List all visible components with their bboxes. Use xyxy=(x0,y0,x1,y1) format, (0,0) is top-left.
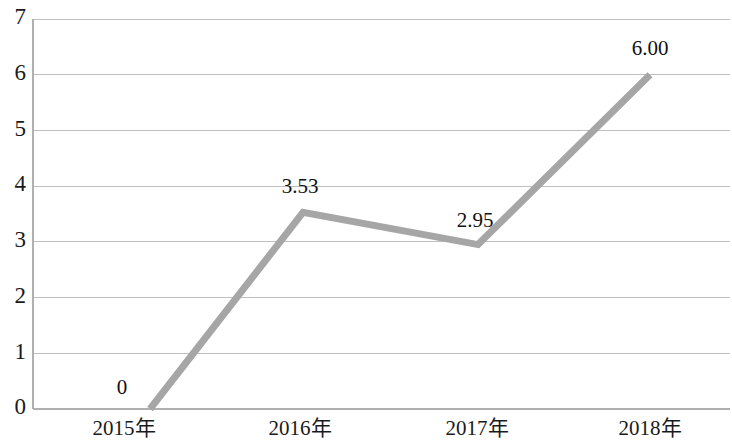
plot-area-background xyxy=(33,19,730,409)
y-tick-label-5: 5 xyxy=(15,116,27,141)
data-label-2015: 0 xyxy=(117,375,128,399)
x-axis-tick-labels: 2015年 2016年 2017年 2018年 xyxy=(93,416,682,440)
x-tick-label-2017: 2017年 xyxy=(446,416,509,440)
y-tick-label-4: 4 xyxy=(15,171,27,196)
y-tick-label-1: 1 xyxy=(15,339,27,364)
x-tick-label-2018: 2018年 xyxy=(619,416,682,440)
y-tick-label-0: 0 xyxy=(15,394,27,419)
data-label-2018: 6.00 xyxy=(632,36,669,60)
y-tick-label-2: 2 xyxy=(15,283,27,308)
y-tick-label-3: 3 xyxy=(15,227,27,252)
x-tick-label-2016: 2016年 xyxy=(269,416,332,440)
chart-canvas: 7 6 5 4 3 2 1 0 2015年 2016年 2017年 2018年 … xyxy=(0,0,732,444)
line-chart: 7 6 5 4 3 2 1 0 2015年 2016年 2017年 2018年 … xyxy=(0,0,732,444)
x-tick-label-2015: 2015年 xyxy=(93,416,156,440)
y-tick-label-7: 7 xyxy=(15,4,27,29)
data-label-2016: 3.53 xyxy=(282,174,319,198)
y-tick-label-6: 6 xyxy=(15,60,27,85)
y-axis-tick-labels: 7 6 5 4 3 2 1 0 xyxy=(15,4,27,419)
data-label-2017: 2.95 xyxy=(457,208,494,232)
